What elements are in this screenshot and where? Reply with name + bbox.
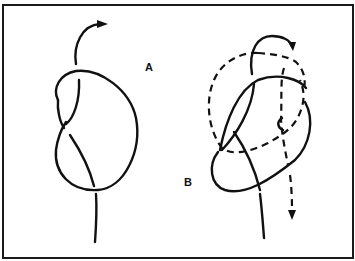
knot-a-main-loop [56,71,137,190]
knot-b [209,36,310,238]
knot-b-top-arrow-icon [288,42,296,51]
knot-a-standing-end [95,194,96,242]
knot-b-diagonal [234,132,260,190]
knot-a-arrow-icon [97,20,108,28]
knot-a-inner-strand [66,80,79,124]
knot-a-diagonal-strand [70,135,94,186]
knot-a [56,20,137,242]
knot-b-standing-end [260,194,264,238]
knot-b-dashed-tail [290,175,292,212]
panel-label-b: B [184,177,192,188]
knot-a-working-end [75,24,100,64]
knot-b-down-arrow-icon [288,210,296,220]
knot-diagram [0,0,355,261]
knot-b-dashed-inner [281,68,288,165]
knot-a-left-lobe [58,100,64,128]
panel-label-a: A [145,62,153,73]
knot-b-main-loop [220,77,306,150]
